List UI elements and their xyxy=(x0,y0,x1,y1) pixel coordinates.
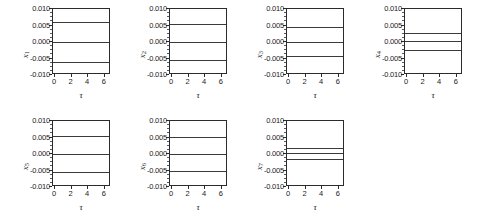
subplot-1-y-tick-labels: 0.0100.0050.000-0.005-0.010 xyxy=(14,8,50,74)
data-line-lower xyxy=(405,50,461,51)
subplot-3-x-tick-labels: 0246 xyxy=(286,74,344,86)
data-line-upper xyxy=(53,22,109,23)
data-line-middle xyxy=(170,154,226,155)
subplot-4-plot-area xyxy=(404,8,462,74)
y-tick-label: 0.005 xyxy=(32,132,50,141)
subplot-6-plot-area xyxy=(169,120,227,186)
y-tick-label: -0.010 xyxy=(30,182,50,191)
y-tick-label: 0.000 xyxy=(266,149,284,158)
data-line-middle xyxy=(53,42,109,43)
x-tick-label: 4 xyxy=(85,189,89,198)
x-tick-label: 4 xyxy=(437,77,441,86)
x-tick-label: 2 xyxy=(69,77,73,86)
data-line-lower xyxy=(53,172,109,173)
y-tick-label: 0.000 xyxy=(149,149,167,158)
y-tick-label: -0.005 xyxy=(264,165,284,174)
y-tick-label: 0.010 xyxy=(266,116,284,125)
data-line-upper xyxy=(287,27,343,28)
subplot-3-plot-area xyxy=(286,8,344,74)
y-tick-label: -0.010 xyxy=(264,70,284,79)
x-tick-label: 4 xyxy=(202,189,206,198)
subplot-2-plot-area xyxy=(169,8,227,74)
data-line-middle xyxy=(287,42,343,43)
subplot-4-y-tick-labels: 0.0100.0050.000-0.005-0.010 xyxy=(366,8,402,74)
x-tick-label: 6 xyxy=(102,77,106,86)
x-tick-label: 2 xyxy=(186,77,190,86)
subplot-2-x-axis-label: τ xyxy=(169,90,227,100)
subplot-2: x20.0100.0050.000-0.005-0.0100246τ xyxy=(117,0,234,112)
data-line-middle xyxy=(405,41,461,42)
x-tick-label: 2 xyxy=(421,77,425,86)
data-line-upper xyxy=(287,148,343,149)
x-tick-label: 0 xyxy=(52,77,56,86)
subplot-2-x-tick-labels: 0246 xyxy=(169,74,227,86)
subplot-1: x10.0100.0050.000-0.005-0.0100246τ xyxy=(0,0,117,112)
y-tick-label: 0.010 xyxy=(32,4,50,13)
subplot-7-x-axis-label: τ xyxy=(286,202,344,212)
x-tick-label: 6 xyxy=(336,77,340,86)
subplot-6: x60.0100.0050.000-0.005-0.0100246τ xyxy=(117,112,234,224)
y-tick-label: 0.000 xyxy=(32,37,50,46)
subplot-4: x40.0100.0050.000-0.005-0.0100246τ xyxy=(352,0,469,112)
x-tick-label: 6 xyxy=(219,77,223,86)
x-tick-label: 2 xyxy=(186,189,190,198)
x-tick-label: 6 xyxy=(102,189,106,198)
subplot-1-x-tick-labels: 0246 xyxy=(52,74,110,86)
x-tick-label: 0 xyxy=(286,77,290,86)
data-line-middle xyxy=(170,42,226,43)
subplot-5-x-tick-labels: 0246 xyxy=(52,186,110,198)
y-tick-label: -0.010 xyxy=(264,182,284,191)
x-tick-label: 0 xyxy=(286,189,290,198)
data-line-upper xyxy=(53,136,109,137)
subplot-7-x-tick-labels: 0246 xyxy=(286,186,344,198)
x-tick-label: 6 xyxy=(336,189,340,198)
subplot-7-y-tick-labels: 0.0100.0050.000-0.005-0.010 xyxy=(248,120,284,186)
x-tick-label: 2 xyxy=(303,77,307,86)
subplot-4-x-tick-labels: 0246 xyxy=(404,74,462,86)
subplot-5-y-tick-labels: 0.0100.0050.000-0.005-0.010 xyxy=(14,120,50,186)
subplot-5-plot-area xyxy=(52,120,110,186)
subplot-7-plot-area xyxy=(286,120,344,186)
data-line-upper xyxy=(405,33,461,34)
x-tick-label: 6 xyxy=(219,189,223,198)
subplot-1-x-axis-label: τ xyxy=(52,90,110,100)
subplot-3: x30.0100.0050.000-0.005-0.0100246τ xyxy=(234,0,351,112)
x-tick-label: 0 xyxy=(169,77,173,86)
y-tick-label: 0.010 xyxy=(149,4,167,13)
y-tick-label: 0.000 xyxy=(149,37,167,46)
x-tick-label: 4 xyxy=(202,77,206,86)
data-line-upper xyxy=(170,137,226,138)
y-tick-label: -0.005 xyxy=(147,53,167,62)
x-tick-label: 0 xyxy=(404,77,408,86)
y-tick-label: -0.010 xyxy=(382,70,402,79)
x-tick-label: 4 xyxy=(319,189,323,198)
subplot-5: x50.0100.0050.000-0.005-0.0100246τ xyxy=(0,112,117,224)
subplot-4-x-axis-label: τ xyxy=(404,90,462,100)
y-tick-label: -0.005 xyxy=(147,165,167,174)
y-tick-label: -0.010 xyxy=(30,70,50,79)
subplot-5-x-axis-label: τ xyxy=(52,202,110,212)
subplot-2-y-tick-labels: 0.0100.0050.000-0.005-0.010 xyxy=(131,8,167,74)
y-tick-label: 0.005 xyxy=(149,132,167,141)
x-tick-label: 6 xyxy=(454,77,458,86)
y-tick-label: -0.005 xyxy=(30,165,50,174)
y-tick-label: 0.000 xyxy=(266,37,284,46)
x-tick-label: 0 xyxy=(52,189,56,198)
y-tick-label: -0.005 xyxy=(264,53,284,62)
y-tick-label: 0.010 xyxy=(266,4,284,13)
subplot-3-x-axis-label: τ xyxy=(286,90,344,100)
y-tick-label: 0.005 xyxy=(384,20,402,29)
data-line-lower xyxy=(53,62,109,63)
y-tick-label: 0.000 xyxy=(384,37,402,46)
data-line-lower xyxy=(170,60,226,61)
x-tick-label: 2 xyxy=(303,189,307,198)
x-tick-label: 2 xyxy=(69,189,73,198)
y-tick-label: 0.005 xyxy=(149,20,167,29)
y-tick-label: 0.010 xyxy=(149,116,167,125)
y-tick-label: 0.005 xyxy=(266,20,284,29)
data-line-lower xyxy=(287,159,343,160)
subplot-6-y-tick-labels: 0.0100.0050.000-0.005-0.010 xyxy=(131,120,167,186)
subplot-7: x70.0100.0050.000-0.005-0.0100246τ xyxy=(234,112,351,224)
y-tick-label: -0.005 xyxy=(30,53,50,62)
subplot-1-plot-area xyxy=(52,8,110,74)
